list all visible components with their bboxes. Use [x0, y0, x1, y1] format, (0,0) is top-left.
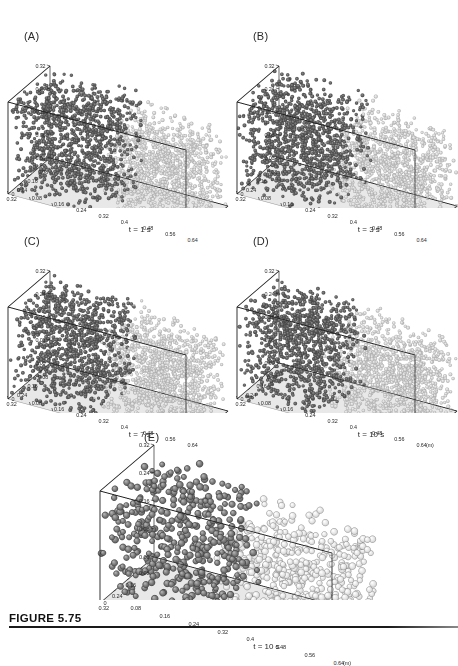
width-tick-0_16: 0.16: [257, 383, 267, 389]
height-tick-0_24: 0.24: [35, 86, 45, 92]
length-tick-0: 0: [12, 396, 15, 402]
length-tick-0_24: 0.24: [305, 207, 315, 213]
particle-bed-render-e: [92, 415, 392, 600]
length-tick-0_08: 0.08: [131, 605, 142, 611]
length-tick-0: 0: [104, 600, 107, 606]
height-tick-0_08: 0.08: [264, 132, 274, 138]
width-tick-0_08: 0.08: [38, 169, 48, 175]
height-tick-0_32: 0.32: [264, 63, 274, 69]
height-tick-0_16: 0.16: [264, 314, 274, 320]
panel-e: 0.320.240.160.080.000.080.160.240.320.64…: [92, 415, 392, 600]
height-tick-0_24: 0.24: [35, 291, 45, 297]
panel-letter-c: (C): [24, 235, 40, 247]
height-tick-0_00: 0.00: [35, 155, 45, 161]
length-tick-0_24: 0.24: [76, 207, 86, 213]
width-tick-0_08: 0.08: [267, 374, 277, 380]
length-tick-0_56: 0.56: [305, 652, 316, 658]
length-tick-0: 0: [241, 191, 244, 197]
height-tick-0_24: 0.24: [264, 291, 274, 297]
height-tick-0_16: 0.16: [35, 314, 45, 320]
height-tick-0_08: 0.08: [35, 337, 45, 343]
height-tick-0_16: 0.16: [35, 109, 45, 115]
length-tick-0_16: 0.16: [283, 201, 293, 207]
height-tick-0_24: 0.24: [139, 470, 150, 476]
time-label-e: t = 10 s: [253, 642, 279, 651]
panel-letter-e: (E): [144, 431, 159, 443]
length-tick-0_08: 0.08: [32, 195, 42, 201]
width-tick-0_08: 0.08: [139, 570, 150, 576]
caption-rule-taper: [388, 626, 458, 628]
figure-caption: FIGURE 5.75: [9, 612, 458, 624]
height-tick-0_08: 0.08: [35, 132, 45, 138]
width-tick-0_08: 0.08: [38, 374, 48, 380]
height-tick-0_08: 0.08: [264, 337, 274, 343]
width-tick-0_24: 0.24: [17, 187, 27, 193]
height-tick-0_32: 0.32: [35, 268, 45, 274]
height-tick-0_00: 0.00: [139, 554, 150, 560]
width-tick-0_24: 0.24: [17, 392, 27, 398]
length-tick-0_08: 0.08: [32, 400, 42, 406]
width-tick-0_16: 0.16: [28, 178, 38, 184]
height-tick-0_32: 0.32: [35, 63, 45, 69]
length-tick-0: 0: [12, 191, 15, 197]
axis-unit-label: (m): [426, 442, 434, 448]
height-tick-0_24: 0.24: [264, 86, 274, 92]
height-tick-0_00: 0.00: [264, 155, 274, 161]
panel-letter-a: (A): [24, 30, 39, 42]
length-tick-0_16: 0.16: [54, 201, 64, 207]
width-tick-0_24: 0.24: [246, 392, 256, 398]
figure-caption-label: FIGURE 5.75: [9, 612, 458, 624]
panel-b: 0.320.240.160.080.000.080.160.240.320.64…: [229, 8, 458, 208]
axis-unit-label: (m): [343, 660, 351, 666]
width-tick-0_24: 0.24: [112, 593, 123, 599]
height-tick-0_16: 0.16: [139, 498, 150, 504]
width-tick-0_16: 0.16: [28, 383, 38, 389]
length-tick-0_16: 0.16: [54, 406, 64, 412]
length-tick-0: 0: [241, 396, 244, 402]
height-tick-0_08: 0.08: [139, 526, 150, 532]
length-tick-0_08: 0.08: [261, 195, 271, 201]
panel-letter-d: (D): [253, 235, 269, 247]
width-tick-0_16: 0.16: [257, 178, 267, 184]
width-tick-0_08: 0.08: [267, 169, 277, 175]
panel-d: 0.320.240.160.080.000.080.160.240.320.64…: [229, 213, 458, 413]
width-tick-0_16: 0.16: [126, 582, 137, 588]
length-tick-0_16: 0.16: [283, 406, 293, 412]
panel-letter-b: (B): [253, 30, 268, 42]
length-tick-0_56: 0.56: [394, 436, 404, 442]
length-tick-0_08: 0.08: [261, 400, 271, 406]
width-tick-0_24: 0.24: [246, 187, 256, 193]
height-tick-0_00: 0.00: [35, 360, 45, 366]
length-tick-0_24: 0.24: [76, 412, 86, 418]
panel-c: 0.320.240.160.080.000.080.160.240.320.64…: [0, 213, 229, 413]
height-tick-0_16: 0.16: [264, 109, 274, 115]
length-tick-0_32: 0.32: [218, 629, 229, 635]
height-tick-0_32: 0.32: [264, 268, 274, 274]
height-tick-0_00: 0.00: [264, 360, 274, 366]
panel-a: 0.320.240.160.080.000.080.160.240.320.64…: [0, 8, 229, 208]
